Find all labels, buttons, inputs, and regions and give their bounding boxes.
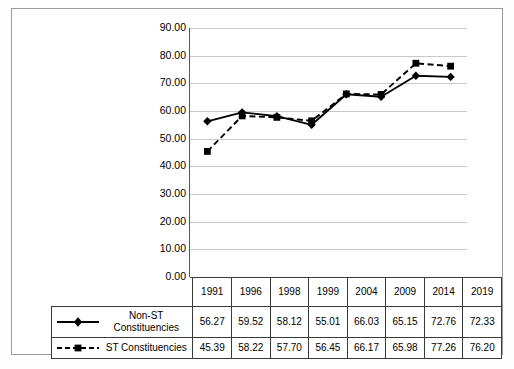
data-cell: 76.20 <box>463 337 502 358</box>
data-cell: 72.76 <box>424 306 463 337</box>
y-tick-label: 30.00 <box>142 188 186 199</box>
column-header-year: 1999 <box>309 278 348 307</box>
y-tick-label: 50.00 <box>142 133 186 144</box>
chart-page: 90.0080.0070.0060.0050.0040.0030.0020.00… <box>0 0 514 369</box>
legend-header-blank <box>52 278 193 307</box>
data-point-marker <box>203 117 211 125</box>
data-point-marker <box>378 91 385 98</box>
y-tick-label: 90.00 <box>142 22 186 33</box>
column-header-year: 2009 <box>386 278 425 307</box>
data-cell: 45.39 <box>193 337 232 358</box>
data-point-marker <box>446 73 454 81</box>
data-point-marker <box>308 117 315 124</box>
legend-label-line1: Non-ST <box>103 310 189 322</box>
data-point-marker <box>412 71 420 79</box>
table-body: Non-STConstituencies56.2759.5258.1255.01… <box>52 306 502 358</box>
plot-area <box>189 28 467 277</box>
data-cell: 72.33 <box>463 306 502 337</box>
legend-square-line-icon <box>55 340 101 356</box>
data-point-marker <box>412 60 419 67</box>
data-cell: 65.15 <box>386 306 425 337</box>
data-cell: 65.98 <box>386 337 425 358</box>
data-point-marker <box>447 63 454 70</box>
y-axis: 90.0080.0070.0060.0050.0040.0030.0020.00… <box>142 28 186 277</box>
y-tick-label: 60.00 <box>142 105 186 116</box>
y-tick-label: 40.00 <box>142 160 186 171</box>
table-header-row: 19911996199819992004200920142019 <box>52 278 502 307</box>
data-cell: 56.45 <box>309 337 348 358</box>
data-cell: 58.12 <box>270 306 309 337</box>
column-header-year: 2014 <box>424 278 463 307</box>
column-header-year: 2004 <box>347 278 386 307</box>
y-tick-label: 70.00 <box>142 77 186 88</box>
series-layer <box>190 28 468 277</box>
column-header-year: 2019 <box>463 278 502 307</box>
data-point-marker <box>204 148 211 155</box>
legend-label-line2: Constituencies <box>103 322 189 334</box>
data-cell: 66.03 <box>347 306 386 337</box>
legend-label: ST Constituencies <box>103 342 189 354</box>
data-cell: 56.27 <box>193 306 232 337</box>
data-point-marker <box>343 91 350 98</box>
data-cell: 59.52 <box>232 306 271 337</box>
legend-entry: Non-STConstituencies <box>52 306 193 337</box>
y-tick-label: 20.00 <box>142 216 186 227</box>
column-header-year: 1991 <box>193 278 232 307</box>
data-cell: 58.22 <box>232 337 271 358</box>
column-header-year: 1998 <box>270 278 309 307</box>
data-table: 19911996199819992004200920142019 Non-STC… <box>51 277 502 359</box>
data-cell: 77.26 <box>424 337 463 358</box>
legend-entry: ST Constituencies <box>52 337 193 358</box>
figure-frame: 90.0080.0070.0060.0050.0040.0030.0020.00… <box>11 8 503 355</box>
legend-label: Non-STConstituencies <box>103 310 189 333</box>
y-tick-label: 80.00 <box>142 50 186 61</box>
table-row: ST Constituencies45.3958.2257.7056.4566.… <box>52 337 502 358</box>
column-header-year: 1996 <box>232 278 271 307</box>
y-tick-label: 10.00 <box>142 243 186 254</box>
table-row: Non-STConstituencies56.2759.5258.1255.01… <box>52 306 502 337</box>
data-cell: 66.17 <box>347 337 386 358</box>
data-cell: 57.70 <box>270 337 309 358</box>
data-point-marker <box>239 113 246 120</box>
legend-diamond-line-icon <box>55 314 101 330</box>
data-cell: 55.01 <box>309 306 348 337</box>
data-point-marker <box>273 114 280 121</box>
